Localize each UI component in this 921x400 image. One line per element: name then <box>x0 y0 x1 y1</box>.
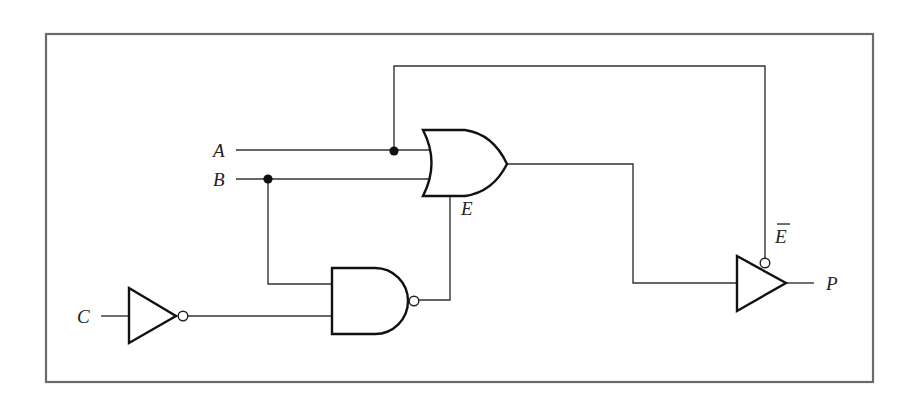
wire-b-to-nand <box>268 179 332 284</box>
nand-inversion-bubble <box>409 296 419 306</box>
junction-dot-b <box>263 174 272 183</box>
label-enable-e-bar: E <box>774 226 787 247</box>
label-or-output-e: E <box>460 198 473 219</box>
label-output-p: P <box>825 273 838 294</box>
junction-dot-a <box>389 146 398 155</box>
not-gate <box>129 288 176 343</box>
not-inversion-bubble <box>178 311 188 321</box>
label-input-b: B <box>213 169 225 190</box>
diagram-frame <box>46 34 873 382</box>
wire-e-to-buffer <box>507 164 736 283</box>
or-gate <box>423 130 507 196</box>
wire-nand-to-or <box>419 195 450 300</box>
label-input-a: A <box>211 140 225 161</box>
nand-gate <box>332 268 408 334</box>
enable-inversion-bubble <box>760 258 770 268</box>
logic-circuit-diagram: A B C E E P <box>0 0 921 400</box>
label-input-c: C <box>77 306 90 327</box>
